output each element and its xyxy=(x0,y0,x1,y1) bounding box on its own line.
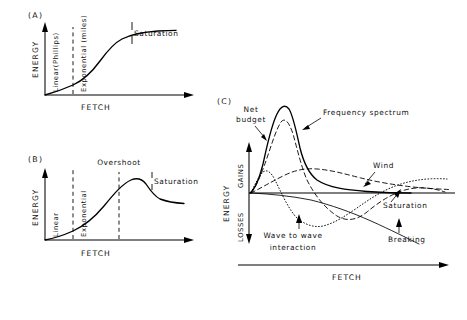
panel-c-tag: (C) xyxy=(217,97,232,106)
panel-c-arrowhead-breaking xyxy=(396,218,402,227)
panel-a-region-label-linear: Linear(Phillips) xyxy=(52,32,60,92)
panel-c-arrowhead-wave-interaction xyxy=(296,214,302,223)
panel-b-x-arrowhead xyxy=(184,237,194,243)
panel-c-y-axis-upper-label: GAINS xyxy=(237,164,245,188)
panel-b-region-label-exponential: Exponential xyxy=(80,190,88,237)
panel-c-annotation-saturation: Saturation xyxy=(383,201,428,210)
panel-a-tag: (A) xyxy=(28,11,43,20)
panel-c: (C) FETCH ENERGY GAINS LOSSES xyxy=(205,90,467,320)
panel-c-annotation-wave-interaction-line2: interaction xyxy=(270,243,317,252)
panel-c-y-axis-label: ENERGY xyxy=(222,185,231,222)
panel-c-annotation-wind: Wind xyxy=(373,161,394,170)
figure-wave-energy-fetch: (A) ENERGY FETCH Linear(Phillips) Expone… xyxy=(0,0,467,320)
panel-c-leader-wind xyxy=(365,172,375,184)
panel-c-annotation-frequency-spectrum: Frequency spectrum xyxy=(323,108,409,117)
panel-b-annotation-overshoot: Overshoot xyxy=(97,158,141,167)
panel-c-annotation-wave-interaction-line1: Wave to wave xyxy=(263,231,322,240)
panel-b-y-axis-label: ENERGY xyxy=(31,189,40,226)
panel-b-region-label-linear: Linear xyxy=(52,212,60,237)
panel-a-y-arrowhead xyxy=(42,22,48,32)
panel-c-curve-frequency-spectrum xyxy=(250,106,411,193)
panel-c-y-arrowhead-up xyxy=(246,142,252,152)
panel-b-annotation-saturation: Saturation xyxy=(154,177,199,186)
panel-c-x-axis-label: FETCH xyxy=(332,273,362,282)
panel-a-curve-energy-growth xyxy=(45,30,176,95)
panel-a-x-axis-label: FETCH xyxy=(81,103,111,112)
panel-c-annotation-net-budget-line2: budget xyxy=(236,115,266,124)
panel-a-x-arrowhead xyxy=(184,92,194,98)
panel-b-curve-energy-overshoot xyxy=(45,179,184,240)
panel-b: (B) ENERGY FETCH Linear Exponential Over… xyxy=(0,140,210,265)
panel-b-tag: (B) xyxy=(28,155,43,164)
panel-a: (A) ENERGY FETCH Linear(Phillips) Expone… xyxy=(0,0,210,120)
panel-c-curve-wave-to-wave-interaction xyxy=(251,171,447,227)
panel-c-arrowhead-net-budget xyxy=(261,134,267,141)
panel-c-x-arrowhead xyxy=(439,262,449,268)
panel-c-plot: (C) FETCH ENERGY GAINS LOSSES xyxy=(205,90,467,320)
panel-a-plot: (A) ENERGY FETCH Linear(Phillips) Expone… xyxy=(0,0,210,120)
panel-c-y-arrowhead-down xyxy=(246,234,252,244)
panel-b-plot: (B) ENERGY FETCH Linear Exponential Over… xyxy=(0,140,210,265)
panel-c-annotation-net-budget-line1: Net xyxy=(244,105,259,114)
panel-b-x-axis-label: FETCH xyxy=(81,249,111,258)
panel-c-annotation-breaking: Breaking xyxy=(388,235,426,244)
panel-a-y-axis-label: ENERGY xyxy=(31,41,40,78)
panel-b-y-arrowhead xyxy=(42,168,48,178)
panel-c-y-axis-lower-label: LOSSES xyxy=(237,212,245,242)
